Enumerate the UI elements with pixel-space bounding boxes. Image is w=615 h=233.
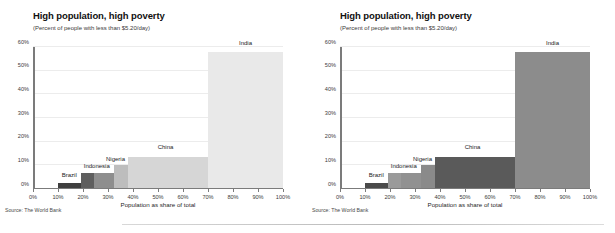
y-axis-tick: 60% — [18, 39, 29, 45]
x-axis-tick: 40% — [434, 194, 445, 200]
x-tick-mark — [283, 189, 284, 192]
x-tick-mark — [565, 189, 566, 192]
bar-label-nigeria: Nigeria — [413, 156, 432, 162]
x-tick-mark — [440, 189, 441, 192]
x-tick-mark — [390, 189, 391, 192]
bar-label-nigeria: Nigeria — [106, 156, 125, 162]
y-axis-line — [340, 47, 342, 189]
y-axis-tick: 0% — [328, 181, 336, 187]
plot-area-left: 0%10%20%30%40%50%60%BrazilIndonesiaNiger… — [33, 47, 283, 189]
page-title: High population, high poverty — [33, 10, 165, 21]
x-axis-tick: 50% — [459, 194, 470, 200]
plot-area-right: 0%10%20%30%40%50%60%BrazilIndonesiaNiger… — [340, 47, 590, 189]
bar-label-indonesia: Indonesia — [391, 163, 417, 169]
x-tick-mark — [415, 189, 416, 192]
x-axis-tick: 50% — [152, 194, 163, 200]
chart-panel-right: High population, high poverty (Percent o… — [307, 0, 614, 233]
bar-label-india: India — [239, 40, 252, 46]
x-axis-tick: 10% — [359, 194, 370, 200]
y-axis-tick: 10% — [325, 157, 336, 163]
x-tick-mark — [465, 189, 466, 192]
x-tick-mark — [590, 189, 591, 192]
source-note: Source: The World Bank — [5, 207, 61, 213]
y-axis-tick: 40% — [18, 86, 29, 92]
x-tick-mark — [58, 189, 59, 192]
x-axis-tick: 100% — [276, 194, 290, 200]
y-axis-line — [33, 47, 35, 189]
bar-label-brazil: Brazil — [369, 172, 384, 178]
x-tick-mark — [515, 189, 516, 192]
x-tick-mark — [208, 189, 209, 192]
bar-segment[interactable] — [421, 165, 435, 189]
x-axis-tick: 10% — [52, 194, 63, 200]
x-axis-tick: 60% — [177, 194, 188, 200]
chart-subtitle: (Percent of people with less than $5.20/… — [33, 25, 150, 31]
bar-label-china: China — [158, 144, 174, 150]
chart-subtitle: (Percent of people with less than $5.20/… — [340, 25, 457, 31]
bar-label-india: India — [546, 40, 559, 46]
y-axis-tick: 30% — [18, 110, 29, 116]
chart-panel-left: High population, high poverty (Percent o… — [0, 0, 307, 233]
x-axis-tick: 80% — [227, 194, 238, 200]
x-axis-tick: 0% — [29, 194, 37, 200]
x-axis-tick: 60% — [484, 194, 495, 200]
y-axis-tick: 0% — [21, 181, 29, 187]
bar-china[interactable] — [435, 157, 515, 189]
y-axis-tick: 50% — [325, 62, 336, 68]
x-tick-mark — [540, 189, 541, 192]
x-tick-mark — [158, 189, 159, 192]
x-axis-tick: 100% — [583, 194, 597, 200]
bar-china[interactable] — [128, 157, 208, 189]
x-tick-mark — [340, 189, 341, 192]
bar-india[interactable] — [208, 52, 283, 189]
y-axis-tick: 20% — [325, 133, 336, 139]
x-tick-mark — [33, 189, 34, 192]
bar-label-indonesia: Indonesia — [84, 163, 110, 169]
bar-india[interactable] — [515, 52, 590, 189]
x-axis-tick: 20% — [384, 194, 395, 200]
page-title: High population, high poverty — [340, 10, 472, 21]
x-axis-tick: 40% — [127, 194, 138, 200]
x-axis-tick: 70% — [509, 194, 520, 200]
x-tick-mark — [183, 189, 184, 192]
y-axis-tick: 50% — [18, 62, 29, 68]
x-tick-mark — [233, 189, 234, 192]
bar-label-brazil: Brazil — [62, 172, 77, 178]
x-axis-tick: 30% — [409, 194, 420, 200]
x-axis-tick: 70% — [202, 194, 213, 200]
bar-segment[interactable] — [114, 165, 128, 189]
x-tick-mark — [258, 189, 259, 192]
x-tick-mark — [133, 189, 134, 192]
x-axis-tick: 80% — [534, 194, 545, 200]
x-axis-tick: 20% — [77, 194, 88, 200]
x-tick-mark — [490, 189, 491, 192]
footer-divider — [122, 224, 604, 225]
x-tick-mark — [83, 189, 84, 192]
x-tick-mark — [108, 189, 109, 192]
x-axis-tick: 0% — [336, 194, 344, 200]
x-tick-mark — [365, 189, 366, 192]
y-axis-tick: 10% — [18, 157, 29, 163]
gridline — [340, 46, 590, 47]
x-axis-label: Population as share of total — [121, 201, 196, 208]
x-axis-label: Population as share of total — [428, 201, 503, 208]
y-axis-tick: 20% — [18, 133, 29, 139]
bar-label-china: China — [465, 144, 481, 150]
y-axis-tick: 30% — [325, 110, 336, 116]
dual-chart-page: High population, high poverty (Percent o… — [0, 0, 615, 233]
x-axis-tick: 90% — [559, 194, 570, 200]
x-axis-tick: 30% — [102, 194, 113, 200]
y-axis-tick: 60% — [325, 39, 336, 45]
gridline — [33, 46, 283, 47]
source-note: Source: The World Bank — [312, 207, 368, 213]
y-axis-tick: 40% — [325, 86, 336, 92]
x-axis-tick: 90% — [252, 194, 263, 200]
